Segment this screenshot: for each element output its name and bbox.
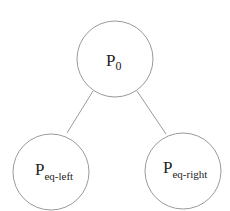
edge-root-left bbox=[67, 91, 93, 133]
node-root-label: P bbox=[106, 51, 115, 70]
node-right-subscript: eq-right bbox=[172, 168, 207, 180]
node-root-subscript: 0 bbox=[115, 59, 121, 73]
tree-diagram: P0 Peq-left Peq-right bbox=[0, 0, 230, 211]
node-eq-left: Peq-left bbox=[13, 134, 89, 210]
node-root: P0 bbox=[77, 21, 153, 97]
node-right-label: P bbox=[163, 158, 172, 177]
edge-root-right bbox=[137, 91, 166, 134]
node-left-subscript: eq-left bbox=[44, 170, 73, 182]
node-eq-right: Peq-right bbox=[145, 133, 221, 209]
node-left-label: P bbox=[35, 160, 44, 179]
